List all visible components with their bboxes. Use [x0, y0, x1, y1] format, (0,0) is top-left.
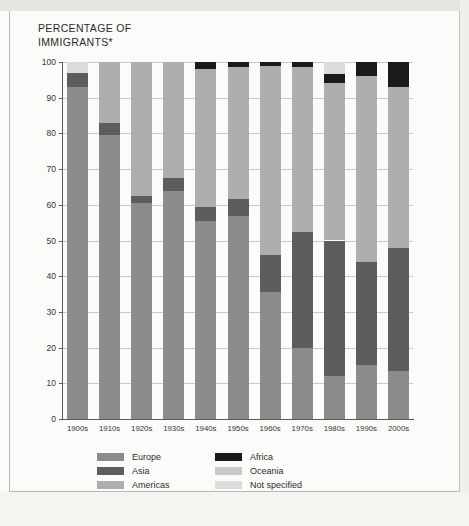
legend-label: Africa: [250, 452, 273, 462]
bar-segment-americas: [388, 87, 409, 248]
legend-label: Asia: [132, 466, 150, 476]
bar-segment-asia: [195, 207, 216, 221]
x-axis-label: 1940s: [189, 424, 223, 433]
bar-segment-europe: [228, 216, 249, 419]
legend-label: Oceania: [250, 466, 284, 476]
y-axis-label: 50: [47, 236, 56, 246]
y-tick-mark: [59, 348, 63, 349]
bar-segment-asia: [260, 255, 281, 292]
bar-segment-not-specified: [324, 62, 345, 74]
bar-1980s: [324, 62, 345, 419]
y-tick-mark: [59, 62, 63, 63]
y-tick-mark: [59, 241, 63, 242]
legend-item-africa: Africa: [215, 452, 365, 462]
x-axis-label: 1920s: [125, 424, 159, 433]
bar-segment-africa: [228, 62, 249, 67]
bar-segment-americas: [356, 76, 377, 262]
y-axis-label: 70: [47, 164, 56, 174]
bar-1900s: [67, 62, 88, 419]
legend-label: Europe: [132, 452, 161, 462]
y-tick-mark: [59, 383, 63, 384]
x-axis-label: 1990s: [349, 424, 383, 433]
y-tick-mark: [59, 205, 63, 206]
bar-segment-asia: [356, 262, 377, 366]
bar-segment-africa: [292, 62, 313, 67]
bar-segment-europe: [388, 371, 409, 419]
bar-segment-asia: [388, 248, 409, 371]
y-axis-label: 80: [47, 128, 56, 138]
bar-segment-africa: [324, 74, 345, 83]
scanned-page: PERCENTAGE OF IMMIGRANTS* 01020304050607…: [0, 0, 469, 526]
legend-label: Americas: [132, 480, 170, 490]
bar-segment-americas: [228, 67, 249, 199]
y-axis-label: 90: [47, 93, 56, 103]
y-tick-mark: [59, 276, 63, 277]
legend-item-not-specified: Not specified: [215, 480, 365, 490]
legend-swatch-icon: [215, 481, 242, 489]
x-axis-label: 1950s: [221, 424, 255, 433]
y-tick-mark: [59, 133, 63, 134]
bar-1940s: [195, 62, 216, 419]
bar-segment-americas: [99, 62, 120, 123]
bar-1930s: [163, 62, 184, 419]
x-axis-label: 1960s: [253, 424, 287, 433]
bar-segment-europe: [67, 87, 88, 419]
legend-swatch-icon: [97, 453, 124, 461]
bar-segment-europe: [195, 221, 216, 419]
chart-plot-area: 0102030405060708090100 1900s1910s1920s19…: [63, 62, 413, 419]
bar-segment-europe: [99, 135, 120, 419]
x-axis-label: 1970s: [285, 424, 319, 433]
y-tick-mark: [59, 169, 63, 170]
y-tick-mark: [59, 312, 63, 313]
bar-segment-asia: [324, 241, 345, 377]
bar-segment-americas: [163, 62, 184, 178]
bar-segment-africa: [356, 62, 377, 76]
bar-segment-asia: [131, 196, 152, 203]
legend-swatch-icon: [97, 481, 124, 489]
bar-1970s: [292, 62, 313, 419]
bar-1910s: [99, 62, 120, 419]
legend-item-europe: Europe: [97, 452, 215, 462]
bar-segment-africa: [195, 62, 216, 69]
bar-2000s: [388, 62, 409, 419]
legend-label: Not specified: [250, 480, 302, 490]
bar-segment-europe: [324, 376, 345, 419]
x-axis-label: 1910s: [93, 424, 127, 433]
bar-segment-europe: [356, 365, 377, 419]
bar-segment-americas: [260, 66, 281, 255]
bar-segment-europe: [292, 348, 313, 419]
bar-segment-africa: [388, 62, 409, 87]
bar-segment-europe: [163, 191, 184, 419]
bar-1960s: [260, 62, 281, 419]
bar-segment-asia: [228, 199, 249, 215]
y-axis-label: 60: [47, 200, 56, 210]
chart-legend: EuropeAfricaAsiaOceaniaAmericasNot speci…: [97, 450, 367, 492]
legend-item-asia: Asia: [97, 466, 215, 476]
y-tick-mark: [59, 98, 63, 99]
legend-swatch-icon: [215, 453, 242, 461]
legend-swatch-icon: [215, 467, 242, 475]
y-tick-mark: [59, 419, 63, 420]
bar-segment-asia: [99, 123, 120, 135]
y-axis-label: 100: [42, 57, 56, 67]
bar-segment-asia: [163, 178, 184, 190]
y-axis-label: 10: [47, 378, 56, 388]
bar-segment-americas: [292, 67, 313, 231]
x-axis-line: [62, 419, 414, 420]
x-axis-label: 1980s: [317, 424, 351, 433]
bar-segment-europe: [260, 292, 281, 419]
y-axis-label: 20: [47, 343, 56, 353]
y-axis-label: 30: [47, 307, 56, 317]
bar-1920s: [131, 62, 152, 419]
bar-segment-asia: [292, 232, 313, 348]
frame-rule-left: [9, 11, 10, 491]
frame-rule-right: [459, 11, 460, 491]
x-axis-label: 2000s: [382, 424, 416, 433]
x-axis-label: 1930s: [157, 424, 191, 433]
chart-title: PERCENTAGE OF IMMIGRANTS*: [38, 22, 132, 49]
bar-segment-not-specified: [67, 62, 88, 73]
y-axis-label: 0: [51, 414, 56, 424]
bar-segment-americas: [324, 83, 345, 240]
bar-1990s: [356, 62, 377, 419]
y-axis-label: 40: [47, 271, 56, 281]
